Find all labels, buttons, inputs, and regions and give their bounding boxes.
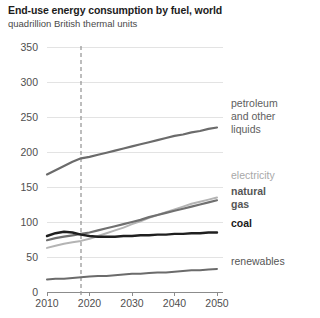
y-tick-label: 250: [20, 111, 38, 123]
series-label-electricity: electricity: [231, 169, 276, 181]
y-tick-label: 350: [20, 41, 38, 53]
series-label-petroleum: petroleum: [231, 97, 278, 109]
y-tick-label: 200: [20, 146, 38, 158]
chart-plot-area: 050100150200250300350 201020202030204020…: [0, 0, 320, 318]
x-axis-tick-labels: 20102020203020402050: [35, 297, 229, 309]
x-axis: [47, 292, 223, 296]
y-tick-label: 100: [20, 216, 38, 228]
x-tick-label: 2050: [205, 297, 229, 309]
y-tick-label: 150: [20, 181, 38, 193]
series-line-petroleum-and-other-liquids: [47, 128, 217, 175]
x-tick-label: 2020: [78, 297, 102, 309]
series-label-natural_gas: natural: [231, 185, 266, 197]
series-label-coal: coal: [231, 217, 252, 229]
series-label-renewables: renewables: [231, 255, 285, 267]
chart-figure: End-use energy consumption by fuel, worl…: [0, 0, 320, 318]
series-label-petroleum: liquids: [231, 123, 261, 135]
x-tick-label: 2040: [163, 297, 187, 309]
y-tick-label: 50: [26, 251, 38, 263]
y-tick-label: 0: [32, 286, 38, 298]
series-line-renewables: [47, 269, 217, 280]
series-label-petroleum: and other: [231, 110, 276, 122]
series-label-natural_gas: gas: [231, 198, 249, 210]
y-tick-label: 300: [20, 76, 38, 88]
series-labels: petroleumand otherliquidselectricitynatu…: [231, 97, 285, 267]
gridlines: [47, 47, 223, 257]
y-axis-tick-labels: 050100150200250300350: [20, 41, 38, 298]
x-tick-label: 2030: [120, 297, 144, 309]
x-tick-label: 2010: [35, 297, 59, 309]
